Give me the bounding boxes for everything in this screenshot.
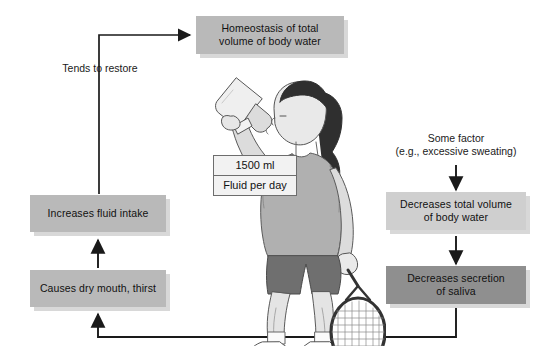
box-increases-fluid-intake-label: Increases fluid intake xyxy=(48,207,149,220)
box-decreases-secretion-saliva-label: Decreases secretion of saliva xyxy=(407,272,505,298)
diagram-canvas: Homeostasis of total volume of body wate… xyxy=(0,0,552,356)
left-leg-shape xyxy=(267,292,290,338)
box-increases-fluid-intake[interactable]: Increases fluid intake xyxy=(30,195,166,232)
box-homeostasis-label: Homeostasis of total volume of body wate… xyxy=(219,22,321,48)
box-decreases-total-volume-label: Decreases total volume of body water xyxy=(400,198,512,224)
left-shoe-shape xyxy=(250,342,293,346)
box-decreases-total-volume[interactable]: Decreases total volume of body water xyxy=(386,192,526,230)
box-homeostasis[interactable]: Homeostasis of total volume of body wate… xyxy=(196,16,344,54)
illustration-woman-drinking xyxy=(196,56,386,346)
box-causes-dry-mouth-thirst[interactable]: Causes dry mouth, thirst xyxy=(30,270,166,307)
box-decreases-secretion-saliva[interactable]: Decreases secretion of saliva xyxy=(386,266,526,304)
callout-fluid-per-day: 1500 ml Fluid per day xyxy=(213,155,297,196)
shorts-shape xyxy=(267,256,342,294)
label-tends-to-restore: Tends to restore xyxy=(27,62,173,75)
arrow-tends-to-restore xyxy=(99,35,190,194)
callout-amount: 1500 ml xyxy=(214,156,296,176)
callout-caption: Fluid per day xyxy=(214,176,296,195)
label-some-factor: Some factor (e.g., excessive sweating) xyxy=(376,132,536,158)
box-causes-dry-mouth-thirst-label: Causes dry mouth, thirst xyxy=(40,282,156,295)
